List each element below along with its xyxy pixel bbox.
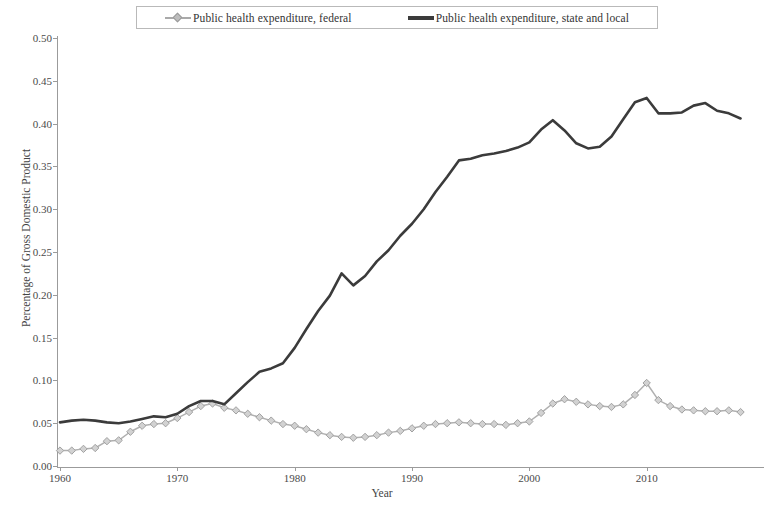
series-marker	[68, 447, 75, 454]
series-marker	[291, 422, 298, 429]
chart-figure: Public health expenditure, federal Publi…	[0, 0, 764, 512]
series-marker	[490, 420, 497, 427]
series-marker	[197, 402, 204, 409]
series-marker	[138, 422, 145, 429]
series-marker	[256, 414, 263, 421]
series-marker	[455, 419, 462, 426]
series-marker	[397, 427, 404, 434]
series-marker	[444, 420, 451, 427]
series-marker	[80, 445, 87, 452]
series-line-1	[60, 98, 741, 423]
series-marker	[690, 407, 697, 414]
chart-plot-area	[0, 0, 764, 512]
series-marker	[737, 408, 744, 415]
series-marker	[467, 420, 474, 427]
series-marker	[561, 396, 568, 403]
series-marker	[314, 429, 321, 436]
series-marker	[432, 420, 439, 427]
series-marker	[573, 398, 580, 405]
series-marker	[666, 402, 673, 409]
series-marker	[162, 420, 169, 427]
series-marker	[502, 421, 509, 428]
series-marker	[408, 425, 415, 432]
series-marker	[373, 432, 380, 439]
series-marker	[350, 434, 357, 441]
series-marker	[479, 420, 486, 427]
series-marker	[338, 433, 345, 440]
series-marker	[584, 401, 591, 408]
series-marker	[725, 407, 732, 414]
series-marker	[702, 408, 709, 415]
series-marker	[326, 432, 333, 439]
series-marker	[608, 403, 615, 410]
series-marker	[596, 402, 603, 409]
series-marker	[185, 408, 192, 415]
series-marker	[279, 420, 286, 427]
series-marker	[678, 406, 685, 413]
series-marker	[232, 407, 239, 414]
series-marker	[420, 422, 427, 429]
series-marker	[103, 438, 110, 445]
series-marker	[268, 417, 275, 424]
series-marker	[385, 429, 392, 436]
series-marker	[150, 420, 157, 427]
series-marker	[514, 420, 521, 427]
series-marker	[56, 447, 63, 454]
series-marker	[92, 444, 99, 451]
series-marker	[244, 410, 251, 417]
series-marker	[361, 433, 368, 440]
series-marker	[713, 408, 720, 415]
series-marker	[303, 426, 310, 433]
